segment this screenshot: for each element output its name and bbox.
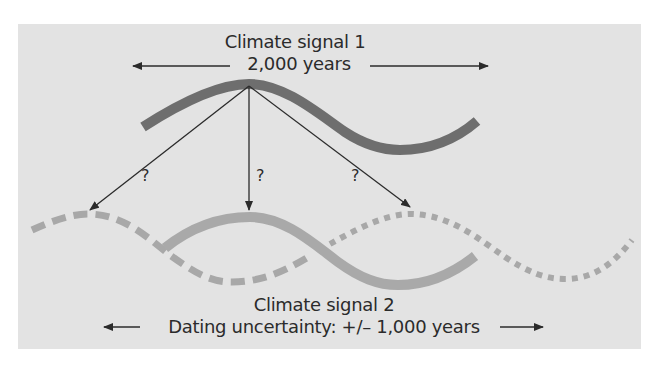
- signal1-period: 2,000 years: [0, 53, 598, 74]
- signal2-dotted-curve: [330, 214, 632, 279]
- question-mark-left: ?: [141, 166, 150, 185]
- arrow-left: [90, 86, 249, 210]
- signal1-curve: [143, 84, 477, 150]
- signal2-solid-curve: [165, 217, 475, 285]
- question-mark-center: ?: [256, 166, 265, 185]
- signal1-title: Climate signal 1: [0, 31, 590, 52]
- question-mark-right: ?: [351, 166, 360, 185]
- signal2-uncertainty: Dating uncertainty: +/– 1,000 years: [0, 316, 648, 337]
- signal2-uncertainty-label: Dating uncertainty: +/– 1,000 years: [163, 316, 485, 337]
- signal2-title: Climate signal 2: [0, 294, 648, 315]
- signal1-period-label: 2,000 years: [241, 53, 357, 74]
- correlation-arrows: [90, 86, 410, 210]
